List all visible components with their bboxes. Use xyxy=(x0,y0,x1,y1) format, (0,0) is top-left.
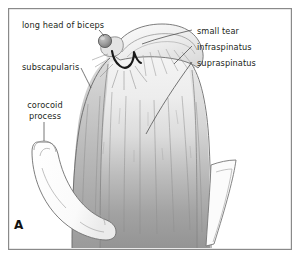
panel-letter: A xyxy=(14,218,24,232)
long-head-of-biceps-tendon xyxy=(98,34,111,47)
figure-panel-a: long head of biceps subscapularis coroco… xyxy=(0,0,302,258)
label-small-tear: small tear xyxy=(197,26,239,37)
biceps-tendon-highlight xyxy=(100,37,105,40)
muscle-mass-main xyxy=(100,54,197,248)
label-subscapularis: subscapularis xyxy=(22,62,79,73)
label-long-head-of-biceps: long head of biceps xyxy=(22,20,104,31)
label-supraspinatus: supraspinatus xyxy=(197,58,256,69)
label-infraspinatus: infraspinatus xyxy=(197,42,252,53)
label-corocoid-process: corocoid process xyxy=(18,100,72,122)
shoulder-anatomy-illustration xyxy=(0,0,302,258)
